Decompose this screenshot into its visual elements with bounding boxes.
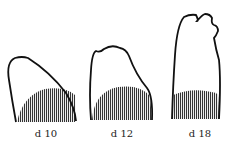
stage-d12-shape — [90, 46, 152, 120]
shaded-region — [172, 90, 219, 119]
stage-label-d10: d 10 — [35, 128, 57, 139]
stage-label-d18: d 18 — [189, 128, 211, 139]
stage-d10-shape — [8, 57, 76, 122]
stage-d18-shape — [172, 14, 220, 119]
shaded-region — [92, 86, 152, 120]
stage-label-d12: d 12 — [111, 128, 133, 139]
limb-bud-diagram — [0, 0, 246, 148]
